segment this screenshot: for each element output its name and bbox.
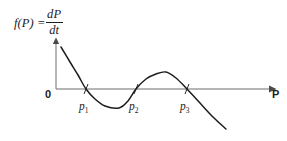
- curve-f-of-p: [61, 47, 226, 129]
- root-label-p1-subscript: 1: [85, 106, 89, 115]
- figure-container: f(P) = dP dt 0 P p1 p2 p3: [0, 0, 287, 141]
- x-axis-label: P: [272, 88, 279, 100]
- root-label-p2: p2: [129, 100, 139, 115]
- root-label-p3-subscript: 3: [186, 106, 190, 115]
- plot-svg: [0, 0, 287, 141]
- root-label-p3: p3: [180, 100, 190, 115]
- root-label-p2-subscript: 2: [135, 106, 139, 115]
- y-axis-arrowhead: [53, 38, 59, 45]
- origin-label: 0: [45, 88, 51, 100]
- root-label-p1: p1: [79, 100, 89, 115]
